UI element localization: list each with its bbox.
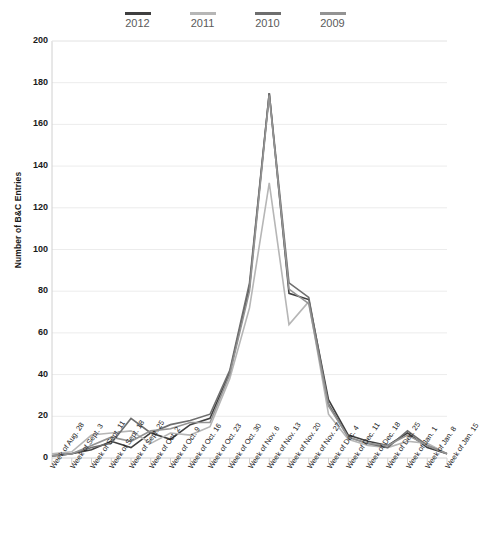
line-chart: 2012201120102009 Number of B&C Entries 2…	[0, 0, 465, 544]
x-axis-tick-labels: Week of Aug. 28Week of Sept. 3Week of Se…	[0, 0, 465, 544]
